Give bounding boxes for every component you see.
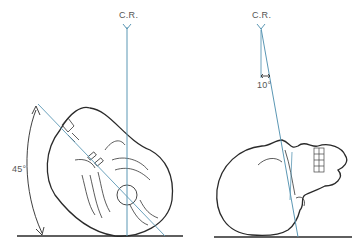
left-view [17, 24, 183, 236]
right-teeth [314, 148, 324, 172]
right-skull-details [258, 150, 305, 206]
right-beam-label: C.R. [252, 10, 271, 20]
left-skull-details [62, 118, 158, 225]
right-angle-label: 10° [257, 80, 272, 90]
skull-positioning-diagram [0, 0, 364, 252]
right-skull-outline [217, 140, 347, 235]
right-central-ray[interactable] [261, 28, 298, 237]
left-angle-label: 45° [12, 164, 27, 174]
left-angle-arc [27, 110, 42, 233]
right-view [214, 24, 352, 237]
left-skull-outline [47, 107, 172, 236]
left-beam-label: C.R. [119, 10, 138, 20]
